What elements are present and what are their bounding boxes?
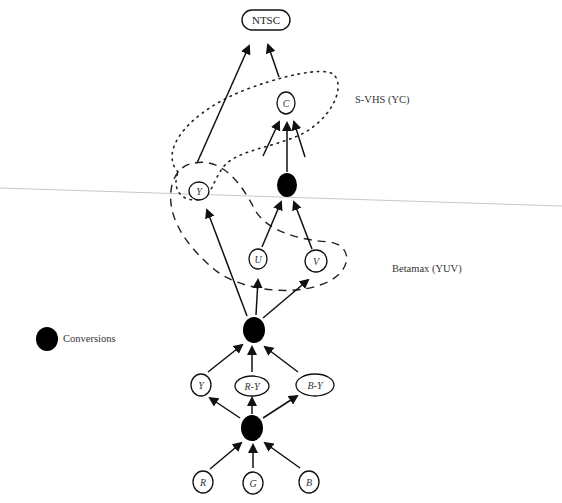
- edge-conversion-to-v: [263, 280, 308, 318]
- edge-v-to-conversion: [294, 202, 312, 249]
- node-v: V: [305, 250, 327, 272]
- edge-u-to-conversion: [262, 202, 281, 247]
- node-u: U: [249, 249, 267, 269]
- edge-conversion-to-y-yc: [207, 210, 247, 316]
- edge-b-to-conversion: [265, 443, 300, 468]
- conversion-node-middle: [243, 317, 265, 343]
- legend: Conversions: [36, 327, 116, 351]
- node-y-yc: Y: [189, 182, 209, 200]
- conversion-node-bottom: [241, 415, 263, 441]
- legend-conversions-label: Conversions: [63, 333, 116, 344]
- node-y: Y: [191, 374, 211, 396]
- conversion-node-top: [277, 173, 297, 197]
- node-c: C: [277, 92, 295, 114]
- edge-y-yc-to-ntsc: [197, 46, 249, 163]
- node-u-label: U: [254, 254, 262, 265]
- edge-aux-left-to-c: [263, 122, 279, 156]
- node-r-minus-y-label: R-Y: [244, 381, 261, 392]
- legend-conversion-swatch: [36, 327, 58, 351]
- video-signal-diagram: NTSC C Y U V Y R-Y B-Y R: [0, 0, 562, 503]
- edge-b-y-to-conversion: [265, 347, 298, 372]
- edge-aux-right-to-c: [294, 122, 305, 157]
- edge-conversion-to-y: [210, 398, 240, 418]
- node-ntsc: NTSC: [242, 10, 290, 30]
- node-ntsc-label: NTSC: [252, 14, 280, 26]
- betamax-group-label: Betamax (YUV): [392, 263, 462, 275]
- node-b-minus-y-label: B-Y: [308, 380, 324, 391]
- node-b: B: [299, 471, 319, 493]
- edge-c-to-ntsc: [268, 45, 279, 77]
- node-b-minus-y: B-Y: [296, 374, 334, 396]
- edge-conversion-to-b-y: [263, 396, 297, 418]
- edge-r-to-conversion: [210, 443, 241, 469]
- edge-conversion-to-u: [256, 280, 258, 315]
- svhs-group-label: S-VHS (YC): [355, 94, 410, 106]
- node-r: R: [193, 471, 213, 493]
- node-g-label: G: [249, 478, 256, 489]
- node-r-minus-y: R-Y: [235, 376, 269, 396]
- node-b-label: B: [306, 477, 312, 488]
- edge-y-to-conversion: [208, 345, 242, 372]
- node-c-label: C: [283, 98, 290, 109]
- node-g: G: [243, 472, 263, 494]
- svhs-group-outline: [172, 72, 338, 200]
- node-r-label: R: [199, 477, 206, 488]
